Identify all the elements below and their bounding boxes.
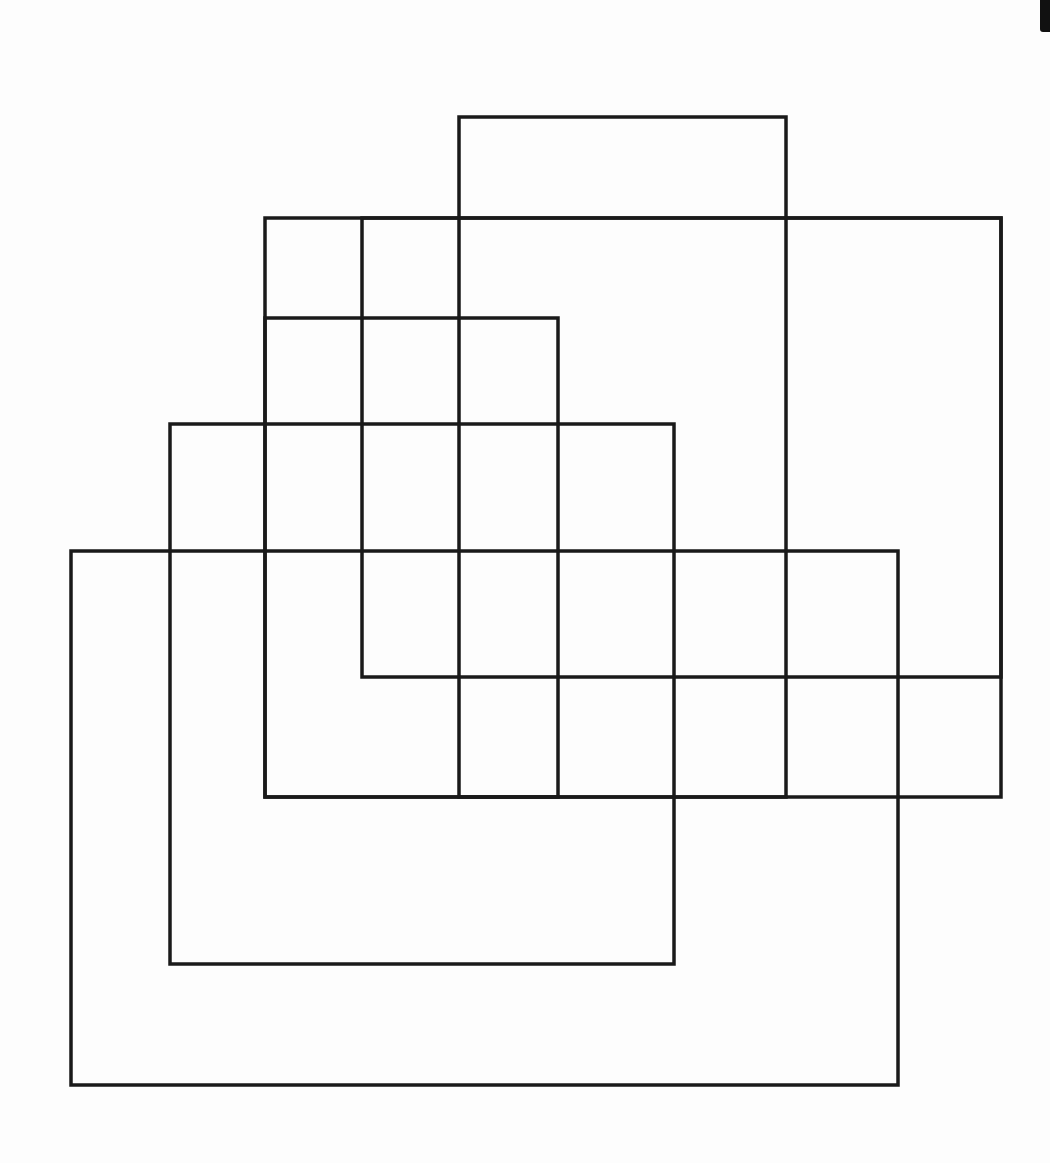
rect-big-right — [265, 218, 1001, 797]
diagram-canvas — [0, 0, 1050, 1163]
rect-middle — [170, 424, 674, 964]
overlapping-rectangles-figure — [0, 0, 1050, 1163]
scan-edge-mark — [1040, 0, 1050, 32]
rect-bottom-large — [71, 551, 898, 1085]
rect-upper-left-square — [265, 318, 558, 797]
